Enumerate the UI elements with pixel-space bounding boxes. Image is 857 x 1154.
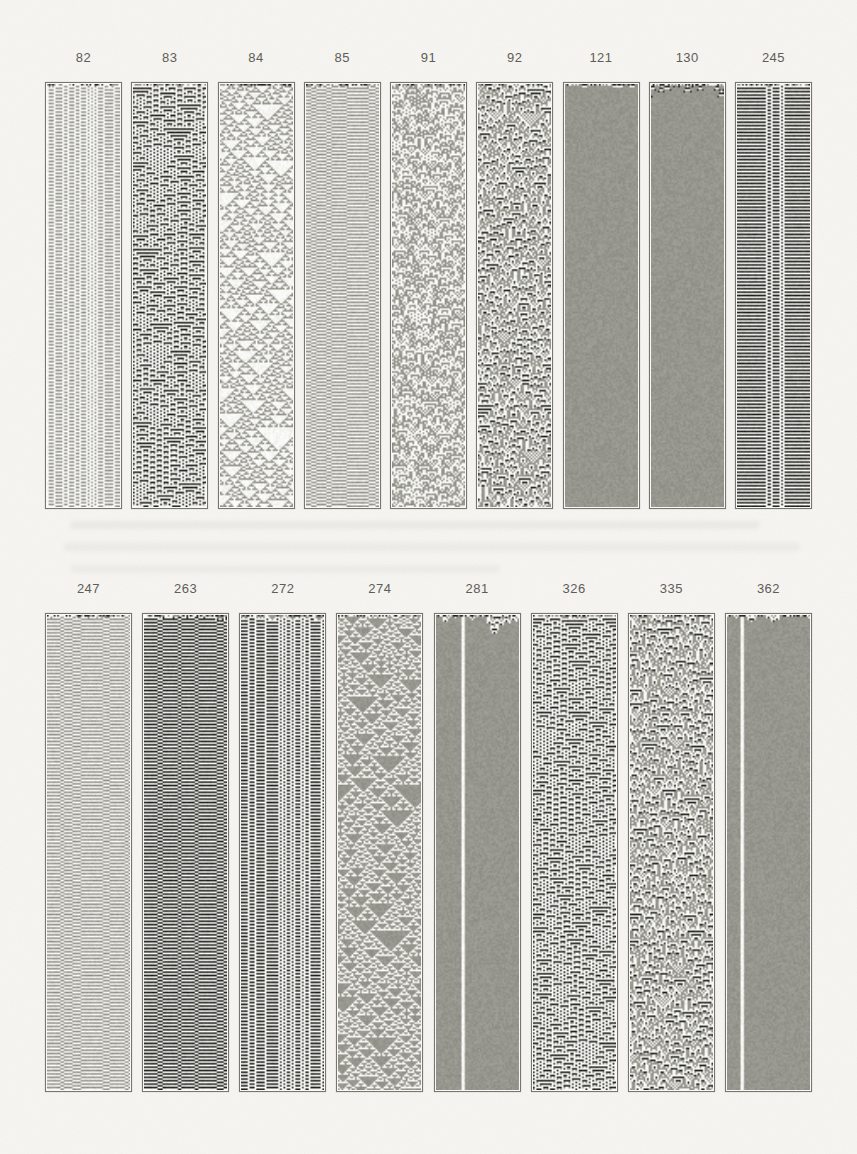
- ca-pattern-canvas: [565, 84, 638, 507]
- ca-strip-frame: [304, 82, 381, 509]
- ca-strip: 263: [142, 581, 229, 1092]
- ca-pattern-canvas: [651, 84, 724, 507]
- ca-strip: 82: [45, 50, 122, 509]
- ca-strip: 121: [563, 50, 640, 509]
- ca-strip-frame: [239, 613, 326, 1092]
- ca-pattern-canvas: [241, 615, 324, 1090]
- ca-strip: 245: [735, 50, 812, 509]
- ca-strip-frame: [735, 82, 812, 509]
- ca-strip: 83: [131, 50, 208, 509]
- ca-strip-frame: [131, 82, 208, 509]
- rule-code-label: 245: [762, 50, 785, 65]
- rule-code-label: 272: [271, 581, 294, 596]
- ca-pattern-canvas: [436, 615, 519, 1090]
- rule-code-label: 247: [77, 581, 100, 596]
- ca-strip: 362: [725, 581, 812, 1092]
- ca-strip: 92: [476, 50, 553, 509]
- rule-code-label: 335: [660, 581, 683, 596]
- rule-code-label: 82: [76, 50, 91, 65]
- rule-code-label: 263: [174, 581, 197, 596]
- rule-code-label: 281: [465, 581, 488, 596]
- ca-strip-frame: [390, 82, 467, 509]
- ca-strip-frame: [649, 82, 726, 509]
- ca-pattern-canvas: [392, 84, 465, 507]
- ca-pattern-canvas: [47, 84, 120, 507]
- ca-pattern-canvas: [144, 615, 227, 1090]
- ca-strip-frame: [142, 613, 229, 1092]
- ca-strip-frame: [531, 613, 618, 1092]
- ca-pattern-canvas: [630, 615, 713, 1090]
- ca-strip: 84: [218, 50, 295, 509]
- ca-strip: 274: [336, 581, 423, 1092]
- ca-pattern-canvas: [478, 84, 551, 507]
- rule-code-label: 92: [507, 50, 522, 65]
- rule-code-label: 326: [563, 581, 586, 596]
- ca-strip-frame: [563, 82, 640, 509]
- ca-pattern-canvas: [338, 615, 421, 1090]
- ca-pattern-canvas: [727, 615, 810, 1090]
- ca-strip: 91: [390, 50, 467, 509]
- ca-strip: 326: [531, 581, 618, 1092]
- ca-figure: 828384859192121130245 247263272274281326…: [0, 50, 857, 1092]
- ca-pattern-canvas: [47, 615, 130, 1090]
- ca-strip-frame: [336, 613, 423, 1092]
- ca-strip-frame: [45, 82, 122, 509]
- ca-strip: 247: [45, 581, 132, 1092]
- rule-code-label: 83: [162, 50, 177, 65]
- ca-row-bottom: 247263272274281326335362: [45, 581, 812, 1092]
- ca-pattern-canvas: [133, 84, 206, 507]
- ca-strip: 272: [239, 581, 326, 1092]
- ca-pattern-canvas: [220, 84, 293, 507]
- rule-code-label: 84: [248, 50, 263, 65]
- ca-strip: 281: [434, 581, 521, 1092]
- rule-code-label: 362: [757, 581, 780, 596]
- ca-strip: 130: [649, 50, 726, 509]
- ca-row-top: 828384859192121130245: [45, 50, 812, 509]
- ca-pattern-canvas: [533, 615, 616, 1090]
- ca-strip-frame: [45, 613, 132, 1092]
- ca-strip: 335: [628, 581, 715, 1092]
- rule-code-label: 274: [368, 581, 391, 596]
- ca-strip-frame: [476, 82, 553, 509]
- ca-strip-frame: [628, 613, 715, 1092]
- rule-code-label: 130: [676, 50, 699, 65]
- rule-code-label: 91: [421, 50, 436, 65]
- rule-code-label: 85: [335, 50, 350, 65]
- ca-strip-frame: [434, 613, 521, 1092]
- ca-strip: 85: [304, 50, 381, 509]
- ca-pattern-canvas: [737, 84, 810, 507]
- book-page: 828384859192121130245 247263272274281326…: [0, 0, 857, 1154]
- ca-strip-frame: [725, 613, 812, 1092]
- ca-strip-frame: [218, 82, 295, 509]
- rule-code-label: 121: [589, 50, 612, 65]
- ca-pattern-canvas: [306, 84, 379, 507]
